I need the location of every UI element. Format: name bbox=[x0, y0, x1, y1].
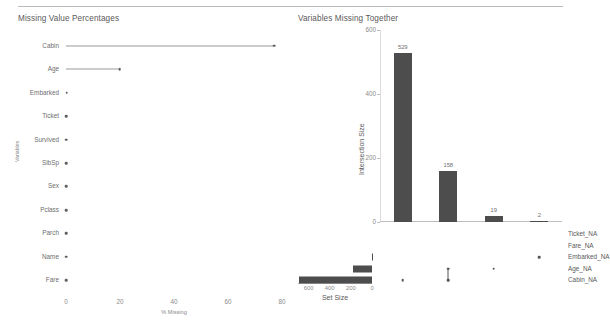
lollipop-row-label: Sex bbox=[48, 182, 59, 189]
lollipop-dot bbox=[65, 232, 68, 235]
set-size-bar bbox=[299, 277, 372, 284]
set-size-bar bbox=[353, 265, 372, 272]
right-yaxis-tick: 0 bbox=[372, 218, 376, 225]
set-size-tick: 600 bbox=[304, 285, 314, 291]
left-chart-title: Missing Value Percentages bbox=[18, 14, 119, 23]
left-xaxis-tick: 20 bbox=[116, 298, 123, 305]
intersection-bar-label: 19 bbox=[491, 207, 497, 213]
set-size-chart: Set Size 6004002000 bbox=[298, 228, 372, 290]
lollipop-row-label: Cabin bbox=[42, 42, 59, 49]
intersection-bar bbox=[439, 171, 457, 222]
lollipop-row-label: Survived bbox=[34, 136, 59, 143]
set-size-title: Set Size bbox=[298, 294, 372, 301]
lollipop-dot bbox=[273, 44, 276, 47]
lollipop-dot bbox=[65, 162, 68, 165]
left-xaxis-tick: 60 bbox=[224, 298, 231, 305]
missing-percentages-panel: Missing Value Percentages Variables Cabi… bbox=[0, 0, 290, 327]
set-size-tick: 200 bbox=[346, 285, 356, 291]
right-chart-title: Variables Missing Together bbox=[298, 14, 398, 23]
left-yaxis-title: Variables bbox=[14, 141, 20, 162]
lollipop-dot bbox=[65, 91, 68, 94]
upset-dot-active bbox=[492, 267, 495, 270]
intersection-bar-label: 2 bbox=[538, 212, 541, 218]
lollipop-dot bbox=[65, 256, 68, 259]
upset-set-label: Cabin_NA bbox=[568, 276, 597, 283]
upset-set-label: Ticket_NA bbox=[568, 230, 597, 237]
upset-dot-active bbox=[447, 267, 450, 270]
upset-dot-active bbox=[538, 256, 541, 259]
right-yaxis-tick-mark bbox=[377, 222, 380, 223]
lollipop-row-label: Name bbox=[42, 253, 59, 260]
lollipop-row-label: Pclass bbox=[40, 206, 59, 213]
lollipop-dot bbox=[65, 279, 68, 282]
set-size-tick: 400 bbox=[325, 285, 335, 291]
intersection-bar bbox=[485, 216, 503, 222]
right-yaxis-tick: 400 bbox=[365, 90, 376, 97]
lollipop-dot bbox=[65, 138, 68, 141]
lollipop-row-label: SibSp bbox=[42, 159, 59, 166]
left-xaxis-title: % Missing bbox=[66, 309, 282, 315]
right-yaxis bbox=[380, 30, 381, 222]
right-yaxis-tick-mark bbox=[377, 158, 380, 159]
lollipop-dot bbox=[65, 185, 68, 188]
upset-set-label: Embarked_NA bbox=[568, 253, 610, 260]
upset-panel: Variables Missing Together Intersection … bbox=[290, 0, 579, 327]
lollipop-row-label: Parch bbox=[42, 229, 59, 236]
left-xaxis-tick: 80 bbox=[278, 298, 285, 305]
lollipop-stem bbox=[66, 69, 120, 70]
upset-set-label: Fare_NA bbox=[568, 242, 594, 249]
lollipop-stem bbox=[66, 45, 274, 46]
right-yaxis-tick: 200 bbox=[365, 154, 376, 161]
set-size-tick: 0 bbox=[370, 285, 373, 291]
right-yaxis-tick-mark bbox=[377, 30, 380, 31]
lollipop-row-label: Ticket bbox=[42, 112, 59, 119]
lollipop-dot bbox=[65, 115, 68, 118]
lollipop-row-label: Age bbox=[48, 65, 59, 72]
intersection-bar-label: 529 bbox=[398, 44, 408, 50]
lollipop-plot-area: CabinAgeEmbarkedTicketSurvivedSibSpSexPc… bbox=[66, 34, 282, 292]
upset-dot-active bbox=[401, 279, 404, 282]
left-xaxis-tick: 0 bbox=[64, 298, 68, 305]
right-yaxis-title: Intersection Size bbox=[358, 123, 365, 175]
lollipop-row-label: Embarked bbox=[30, 89, 59, 96]
lollipop-row-label: Fare bbox=[46, 276, 59, 283]
lollipop-dot bbox=[118, 68, 121, 71]
right-yaxis-tick-mark bbox=[377, 94, 380, 95]
upset-dot-active bbox=[447, 279, 450, 282]
intersection-bar-label: 158 bbox=[443, 162, 453, 168]
intersection-bar bbox=[530, 221, 548, 222]
left-xaxis-tick: 40 bbox=[170, 298, 177, 305]
intersection-bars-area: 6004002000529158192 bbox=[380, 30, 562, 222]
intersection-bar bbox=[394, 53, 412, 222]
right-yaxis-tick: 600 bbox=[365, 26, 376, 33]
upset-matrix: Ticket_NAFare_NAEmbarked_NAAge_NACabin_N… bbox=[380, 228, 562, 290]
lollipop-dot bbox=[65, 209, 68, 212]
upset-set-label: Age_NA bbox=[568, 265, 592, 272]
left-xaxis: 020406080 % Missing bbox=[66, 292, 282, 293]
